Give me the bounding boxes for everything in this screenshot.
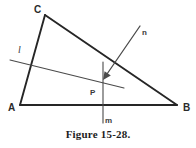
- figure-page: A B C P l m n Figure 15-28.: [0, 0, 196, 148]
- ray-n: [107, 26, 140, 74]
- geometry-diagram: A B C P l m n: [0, 0, 196, 148]
- vertex-label-c: C: [34, 4, 41, 15]
- ray-n-arrowhead: [103, 71, 111, 80]
- figure-caption: Figure 15-28.: [0, 128, 196, 140]
- ray-label-n: n: [142, 28, 147, 37]
- triangle-side-ac: [20, 15, 45, 105]
- vertex-label-b: B: [183, 102, 190, 113]
- point-label-p: P: [90, 88, 96, 97]
- triangle-side-cb: [45, 15, 177, 105]
- vertex-label-a: A: [8, 102, 15, 113]
- line-label-l: l: [18, 44, 21, 55]
- line-label-m: m: [105, 116, 112, 125]
